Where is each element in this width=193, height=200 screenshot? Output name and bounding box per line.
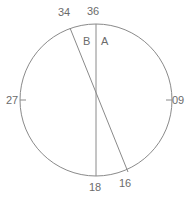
compass-dial-svg [0, 0, 193, 200]
line-label-b: B [83, 35, 90, 47]
tick-label-34: 34 [58, 6, 70, 18]
tick-label-18: 18 [89, 181, 101, 193]
tick-label-27: 27 [6, 94, 18, 106]
bearing-line-b [70, 28, 128, 172]
line-label-a: A [101, 35, 108, 47]
tick-label-16: 16 [119, 177, 131, 189]
diagram-canvas: 36 34 27 09 18 16 B A [0, 0, 193, 200]
tick-label-36: 36 [87, 5, 99, 17]
tick-label-09: 09 [172, 94, 184, 106]
